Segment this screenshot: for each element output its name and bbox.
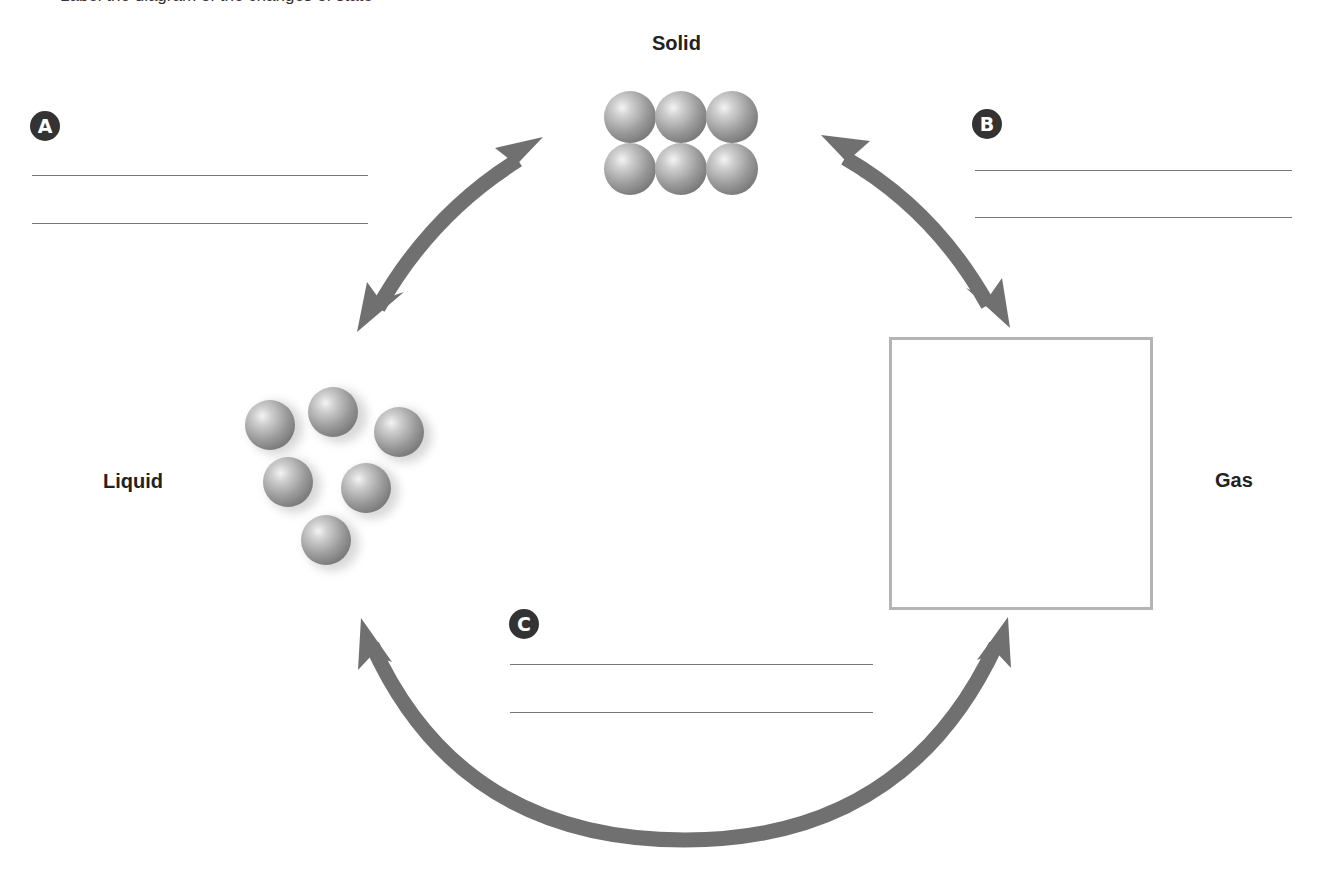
badge-c: C (509, 609, 539, 639)
badge-b: B (972, 109, 1002, 139)
answer-line-b2[interactable] (975, 217, 1292, 218)
gas-drawing-box[interactable] (889, 337, 1153, 610)
answer-line-a1[interactable] (32, 175, 368, 176)
solid-label: Solid (652, 32, 701, 55)
answer-line-c2[interactable] (510, 712, 873, 713)
liquid-gas-arrow (372, 645, 996, 840)
answer-line-b1[interactable] (975, 170, 1292, 171)
badge-a: A (30, 111, 60, 141)
answer-line-a2[interactable] (32, 223, 368, 224)
liquid-label: Liquid (103, 470, 163, 493)
answer-line-c1[interactable] (510, 664, 873, 665)
solid-particles (604, 91, 758, 195)
gas-label: Gas (1215, 469, 1253, 492)
liquid-particles (245, 387, 432, 571)
solid-liquid-arrow (378, 160, 518, 308)
solid-gas-arrow (845, 158, 988, 305)
states-of-matter-diagram: Label the diagram of the changes of stat… (0, 0, 1327, 870)
